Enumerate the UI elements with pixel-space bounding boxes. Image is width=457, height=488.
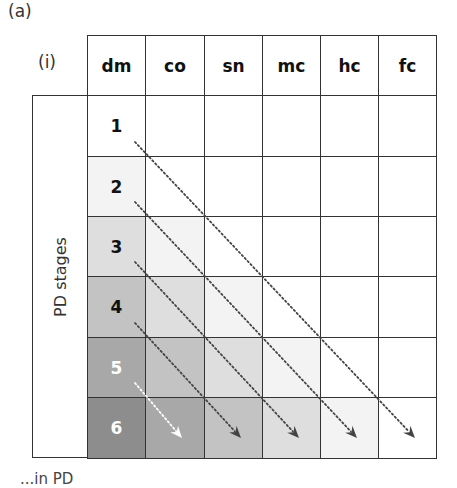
cell-stage5-mc — [262, 337, 321, 398]
column-header-sn: sn — [204, 35, 263, 96]
row-axis-label: PD stages — [51, 237, 70, 317]
cell-stage4-co — [145, 276, 205, 338]
cell-stage4-fc — [378, 276, 437, 338]
stage-label-5: 5 — [87, 337, 146, 398]
cell-stage2-fc — [378, 156, 437, 217]
cell-stage3-mc — [262, 216, 321, 277]
cell-stage3-co — [145, 216, 205, 277]
column-header-dm: dm — [87, 35, 146, 96]
caption-fragment: ...in PD — [20, 470, 73, 488]
stage-label-6: 6 — [87, 397, 146, 459]
cell-stage3-hc — [320, 216, 379, 277]
column-header-mc: mc — [262, 35, 321, 96]
cell-stage2-co — [145, 156, 205, 217]
column-header-hc: hc — [320, 35, 379, 96]
cell-stage5-sn — [204, 337, 263, 398]
stage-label-3: 3 — [87, 216, 146, 277]
cell-stage6-co — [145, 397, 205, 459]
cell-stage5-fc — [378, 337, 437, 398]
cell-stage1-sn — [204, 95, 263, 157]
cell-stage5-co — [145, 337, 205, 398]
cell-stage4-mc — [262, 276, 321, 338]
cell-stage1-fc — [378, 95, 437, 157]
cell-stage4-sn — [204, 276, 263, 338]
row-axis-box: PD stages — [32, 95, 87, 458]
column-header-fc: fc — [378, 35, 437, 96]
cell-stage3-sn — [204, 216, 263, 277]
panel-label: (a) — [8, 1, 32, 21]
sub-panel-label: (i) — [38, 52, 56, 72]
column-header-co: co — [145, 35, 205, 96]
cell-stage2-hc — [320, 156, 379, 217]
cell-stage5-hc — [320, 337, 379, 398]
cell-stage6-hc — [320, 397, 379, 459]
cell-stage6-fc — [378, 397, 437, 459]
stage-label-4: 4 — [87, 276, 146, 338]
cell-stage1-co — [145, 95, 205, 157]
cell-stage6-sn — [204, 397, 263, 459]
stage-label-2: 2 — [87, 156, 146, 217]
cell-stage4-hc — [320, 276, 379, 338]
stage-label-1: 1 — [87, 95, 146, 157]
cell-stage6-mc — [262, 397, 321, 459]
cell-stage1-hc — [320, 95, 379, 157]
cell-stage2-mc — [262, 156, 321, 217]
cell-stage1-mc — [262, 95, 321, 157]
cell-stage2-sn — [204, 156, 263, 217]
cell-stage3-fc — [378, 216, 437, 277]
